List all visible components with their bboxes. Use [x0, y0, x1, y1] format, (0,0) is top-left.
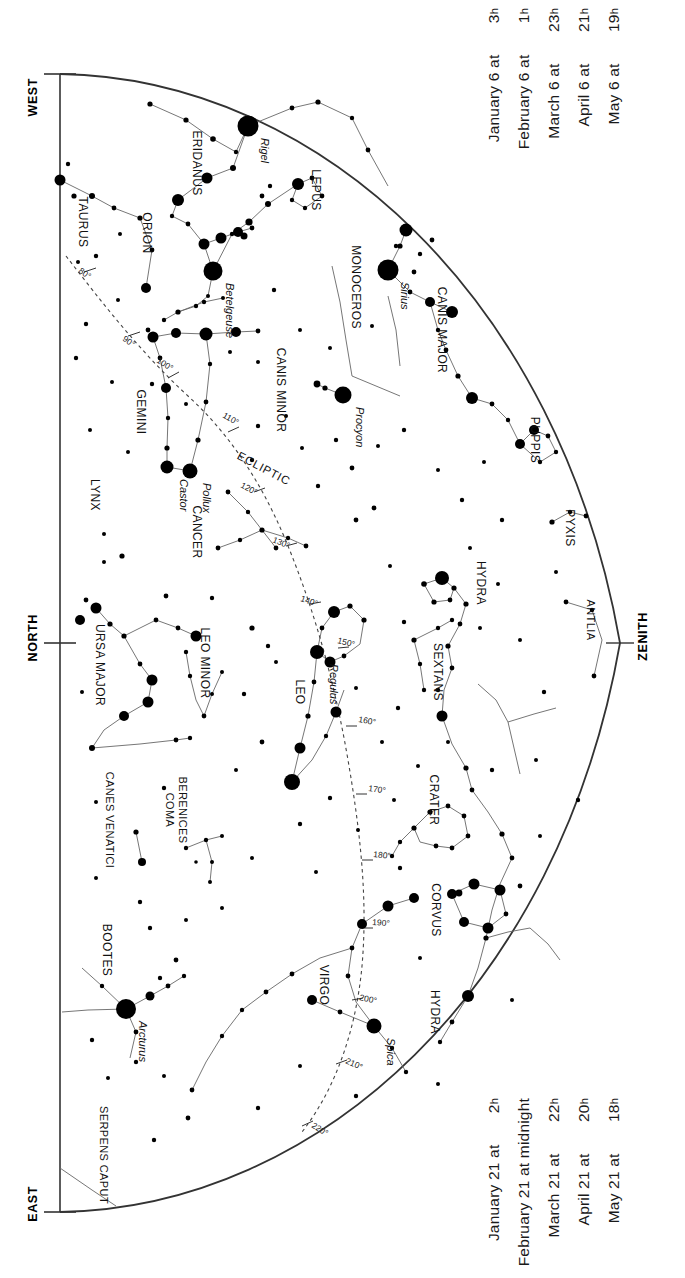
hour-suffix: h [578, 8, 590, 14]
constellation-label: CANCER [190, 505, 204, 558]
hour-value: 22 [545, 1104, 562, 1122]
constellation-label: LEO [293, 679, 307, 704]
constellation-label: HYDRA [474, 561, 488, 605]
star-label: Sirius [399, 282, 411, 310]
ecliptic-degree-label: 170° [368, 783, 387, 795]
date-bottom-line: April 21 at 20h [576, 1098, 592, 1225]
date-bottom-line: March 21 at 22h [546, 1098, 562, 1237]
constellation-label: BERENICES [177, 776, 189, 843]
star-label-group: RigelBetelgeuseSiriusProcyonCastorPollux… [137, 138, 411, 1066]
ecliptic-degree-label: 140° [299, 593, 319, 608]
constellation-label: ORION [140, 212, 154, 253]
constellation-label: MONOCEROS [349, 245, 363, 329]
hour-suffix: h [608, 8, 620, 14]
star-label: Castor [178, 479, 190, 513]
constellation-label: CANES VENATICI [104, 772, 116, 868]
ecliptic-degree-label: 110° [221, 410, 241, 427]
constellation-label: CRATER [427, 775, 441, 826]
ecliptic-degree-label: 80° [77, 265, 93, 281]
ecliptic-tick-label-group: 80°90°100°110°120°130°140°150°160°170°18… [77, 265, 391, 1138]
star-label: Rigel [259, 138, 271, 164]
ecliptic-degree-label: 160° [358, 714, 377, 727]
constellation-label: CANIS MAJOR [435, 287, 449, 373]
hour-value: 18 [605, 1104, 622, 1122]
date-spacer [575, 1122, 592, 1153]
hour-suffix: h [608, 1098, 620, 1104]
hour-suffix: h [548, 1098, 560, 1104]
star-label: Regulus [328, 664, 340, 705]
ecliptic-degree-label: 100° [155, 355, 175, 373]
constellation-label: URSA MAJOR [93, 624, 107, 706]
constellation-label: SERPENS CAPUT [98, 1106, 110, 1204]
date-spacer [605, 32, 622, 63]
date-text: March 6 at [545, 63, 562, 138]
ecliptic-degree-label: 150° [337, 635, 356, 649]
ecliptic-degree-label: 210° [344, 1056, 364, 1072]
date-spacer [575, 32, 592, 63]
date-text: January 6 at [485, 55, 502, 143]
hour-value: 21 [575, 14, 592, 32]
ecliptic-degree-label: 130° [271, 535, 291, 551]
ecliptic-degree-label: 120° [239, 480, 259, 497]
hour-value: 1 [515, 14, 532, 23]
cardinal-east: EAST [26, 1186, 40, 1222]
constellation-label: BOOTES [100, 924, 114, 976]
constellation-label: VIRGO [317, 965, 331, 1006]
constellation-label: SEXTANS [431, 643, 445, 701]
date-text: February 21 at midnight [515, 1098, 532, 1266]
date-bottom-line: February 21 at midnight [516, 1098, 532, 1266]
date-spacer [605, 1122, 622, 1153]
label-layer: ERIDANUSTAURUSORIONLEPUSMONOCEROSCANIS M… [0, 0, 685, 1278]
date-spacer [485, 1113, 502, 1144]
constellation-label: COMA [164, 793, 176, 828]
star-label: Arcturus [137, 1020, 149, 1062]
date-top-line: March 6 at 23h [546, 8, 562, 139]
constellation-label: TAURUS [76, 197, 90, 248]
constellation-label: PUPPIS [528, 417, 542, 463]
date-text: May 6 at [605, 63, 622, 124]
hour-suffix: h [518, 8, 530, 14]
date-top-line: February 6 at 1h [516, 8, 532, 149]
star-label: Spica [385, 1038, 397, 1066]
constellation-label: CORVUS [429, 883, 443, 937]
hour-value: 20 [575, 1104, 592, 1122]
date-text: May 21 at [605, 1153, 622, 1223]
hour-value: 3 [485, 14, 502, 23]
zenith-label: ZENITH [636, 612, 650, 661]
date-top-line: January 6 at 3h [486, 8, 502, 142]
date-spacer [545, 1122, 562, 1153]
date-bottom-line: May 21 at 18h [606, 1098, 622, 1223]
star-label: Pollux [201, 483, 213, 513]
hour-suffix: h [488, 1098, 500, 1104]
ecliptic-degree-label: 200° [359, 992, 378, 1005]
date-text: February 6 at [515, 55, 532, 150]
ecliptic-degree-label: 220° [310, 1120, 330, 1138]
date-top-line: May 6 at 19h [606, 8, 622, 124]
constellation-label: HYDRA [428, 990, 442, 1034]
ecliptic-degree-label: 190° [372, 917, 390, 928]
constellation-label: LEPUS [309, 169, 323, 210]
hour-value: 19 [605, 14, 622, 32]
hour-suffix: h [578, 1098, 590, 1104]
constellation-label: ANTLIA [585, 600, 597, 641]
date-text: January 21 at [485, 1145, 502, 1242]
constellation-label: PYXIS [563, 509, 577, 546]
hour-suffix: h [488, 8, 500, 14]
constellation-label: LYNX [88, 479, 102, 511]
ecliptic-degree-label: 180° [373, 849, 392, 861]
date-top-line: April 6 at 21h [576, 8, 592, 127]
cardinal-west: WEST [26, 78, 40, 117]
date-spacer [545, 32, 562, 63]
cardinal-north: NORTH [26, 614, 40, 661]
date-bottom-line: January 21 at 2h [486, 1098, 502, 1241]
constellation-label: GEMINI [134, 389, 148, 434]
star-label: Betelgeuse [224, 283, 236, 338]
hour-value: 23 [545, 14, 562, 32]
date-text: April 6 at [575, 63, 592, 126]
star-chart: ERIDANUSTAURUSORIONLEPUSMONOCEROSCANIS M… [0, 0, 685, 1278]
constellation-label: CANIS MINOR [274, 348, 288, 432]
constellation-label: LEO MINOR [198, 628, 212, 699]
constellation-label: ERIDANUS [190, 130, 204, 195]
date-spacer [485, 23, 502, 54]
date-text: April 21 at [575, 1153, 592, 1225]
